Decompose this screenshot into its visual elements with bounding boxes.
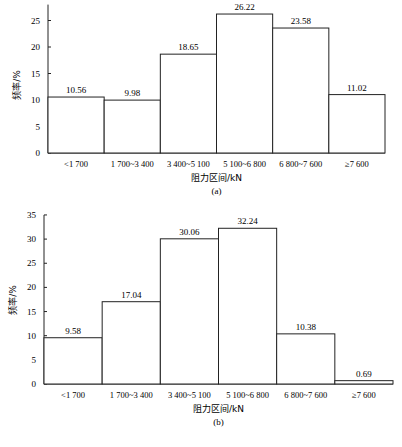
bar-value-label: 9.98	[124, 88, 140, 98]
y-tick-label: 0	[32, 379, 37, 389]
y-tick-label: 0	[36, 148, 41, 158]
panel-label: (a)	[212, 186, 222, 196]
x-category-label: <1 700	[64, 159, 88, 169]
bar	[219, 228, 277, 384]
bar	[160, 239, 218, 384]
x-axis-label: 阻力区间/kN	[191, 172, 242, 183]
y-tick-label: 25	[27, 258, 37, 268]
bar	[160, 54, 216, 153]
bar	[273, 28, 329, 153]
bar-value-label: 9.58	[65, 326, 81, 336]
x-category-label: <1 700	[61, 390, 85, 400]
bar	[335, 381, 393, 384]
bar-value-label: 32.24	[237, 216, 258, 226]
y-tick-label: 35	[27, 210, 37, 220]
bar-value-label: 11.02	[347, 83, 367, 93]
y-tick-label: 10	[27, 331, 37, 341]
x-category-label: 1 700~3 400	[111, 159, 154, 169]
y-axis-label: 频率/%	[11, 70, 22, 100]
bar-value-label: 17.04	[121, 290, 142, 300]
bar	[44, 338, 102, 384]
x-category-label: 3 400~5 100	[167, 159, 210, 169]
y-tick-label: 25	[31, 16, 41, 26]
x-category-label: 6 800~7 600	[279, 159, 322, 169]
x-category-label: ≥7 600	[345, 159, 369, 169]
bar-value-label: 26.22	[234, 2, 254, 12]
y-tick-label: 10	[31, 95, 41, 105]
x-category-label: 5 100~6 800	[223, 159, 266, 169]
y-tick-label: 20	[31, 42, 41, 52]
y-tick-label: 5	[36, 122, 41, 132]
y-tick-label: 20	[27, 282, 37, 292]
bar	[277, 334, 335, 384]
bar-value-label: 30.06	[179, 227, 200, 237]
bar	[102, 302, 160, 384]
bar	[217, 14, 273, 153]
x-category-label: 5 100~6 800	[226, 390, 269, 400]
bar-value-label: 0.69	[356, 369, 372, 379]
x-category-label: 1 700~3 400	[110, 390, 153, 400]
y-tick-label: 15	[31, 69, 41, 79]
x-category-label: ≥7 600	[352, 390, 376, 400]
y-tick-label: 30	[27, 234, 37, 244]
bar-value-label: 10.38	[296, 322, 317, 332]
bar-value-label: 23.58	[291, 16, 312, 26]
x-category-label: 3 400~5 100	[168, 390, 211, 400]
chart-canvas: 0510152025频率/%10.56<1 7009.981 700~3 400…	[0, 0, 402, 447]
bar	[48, 97, 104, 153]
x-category-label: 6 800~7 600	[284, 390, 327, 400]
x-axis-label: 阻力区间/kN	[193, 403, 244, 414]
panel-label: (b)	[213, 417, 224, 427]
bar	[104, 100, 160, 153]
y-axis-label: 频率/%	[7, 285, 18, 315]
y-tick-label: 15	[27, 307, 37, 317]
bar-value-label: 10.56	[66, 85, 87, 95]
bar	[329, 95, 385, 153]
bar-value-label: 18.65	[178, 42, 199, 52]
y-tick-label: 5	[32, 355, 37, 365]
